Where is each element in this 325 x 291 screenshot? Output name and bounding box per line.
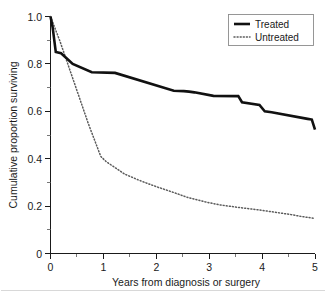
y-tick-label: 0 <box>36 248 42 260</box>
x-tick-label: 4 <box>259 261 265 273</box>
legend-label-untreated: Untreated <box>255 32 299 43</box>
x-tick-label: 3 <box>206 261 212 273</box>
y-tick-label: 0.6 <box>27 105 42 117</box>
chart-legend: Treated Untreated <box>229 15 314 46</box>
x-tick-label: 2 <box>153 261 159 273</box>
kaplan-meier-chart: 1.0 0.8 0.6 0.4 0.2 0 0 1 2 3 <box>0 0 325 291</box>
x-tick-label: 5 <box>312 261 318 273</box>
y-tick-label: 0.8 <box>27 58 42 70</box>
y-tick-label: 1.0 <box>27 11 42 23</box>
x-tick-label: 1 <box>100 261 106 273</box>
x-axis-title: Years from diagnosis or surgery <box>112 276 261 288</box>
x-tick-label: 0 <box>48 261 54 273</box>
y-tick-label: 0.4 <box>27 153 42 165</box>
y-tick-label: 0.2 <box>27 200 42 212</box>
legend-label-treated: Treated <box>255 19 289 30</box>
y-axis-title: Cumulative proportion surviving <box>7 61 19 208</box>
survival-curve-figure: 1.0 0.8 0.6 0.4 0.2 0 0 1 2 3 <box>0 0 325 291</box>
